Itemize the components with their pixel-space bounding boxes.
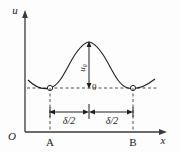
right-span-arrowhead-start — [89, 110, 95, 115]
amplitude-arrowhead-down — [87, 83, 92, 89]
left-span-arrowhead-end — [83, 110, 89, 115]
amplitude-arrow-group — [87, 41, 92, 89]
y-axis-arrowhead — [22, 10, 28, 18]
point-label-a: A — [46, 136, 54, 148]
y-axis-label: u — [12, 4, 18, 16]
figure-canvas: u x O u₀ 0 δ/2 — [0, 0, 180, 153]
amplitude-label: u₀ — [77, 64, 87, 72]
axes-group — [22, 10, 167, 135]
zero-level-label: 0 — [92, 82, 97, 92]
origin-label: O — [8, 130, 16, 142]
wave-profile-figure: u x O u₀ 0 δ/2 — [0, 0, 180, 153]
left-span-label: δ/2 — [63, 115, 75, 126]
point-label-b: B — [129, 136, 136, 148]
right-span-arrowhead-end — [127, 110, 133, 115]
right-span-label: δ/2 — [106, 115, 118, 126]
x-axis-label: x — [160, 134, 166, 146]
